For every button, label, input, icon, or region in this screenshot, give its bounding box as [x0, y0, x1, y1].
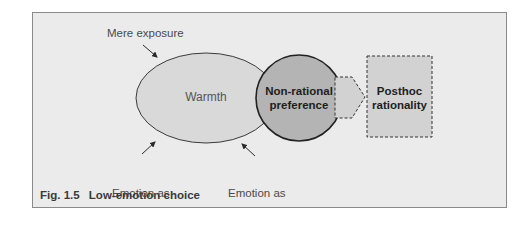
warmth-label: Warmth [166, 90, 246, 104]
mere-exposure-arrow-icon [143, 45, 157, 57]
emotion-information-line2: information [228, 228, 286, 231]
emotion-as-information-arrow-icon [242, 144, 255, 156]
non-rational-preference-label: Non-rational preference [256, 84, 342, 112]
non-rational-line1: Non-rational [256, 84, 342, 98]
figure-number: Fig. 1.5 [40, 189, 80, 201]
emotion-as-signal-arrow-icon [142, 142, 155, 154]
emotion-signal-line2: signal [112, 228, 170, 231]
posthoc-rationality-label: Posthoc rationality [367, 84, 432, 112]
non-rational-line2: preference [256, 98, 342, 112]
posthoc-line2: rationality [367, 98, 432, 112]
mere-exposure-label: Mere exposure [107, 26, 184, 40]
emotion-information-line1: Emotion as [228, 186, 286, 200]
figure-caption: Fig. 1.5 Low-emotion choice [40, 189, 200, 201]
figure-title: Low-emotion choice [89, 189, 200, 201]
posthoc-line1: Posthoc [367, 84, 432, 98]
emotion-as-information-label: Emotion as information [228, 158, 286, 231]
